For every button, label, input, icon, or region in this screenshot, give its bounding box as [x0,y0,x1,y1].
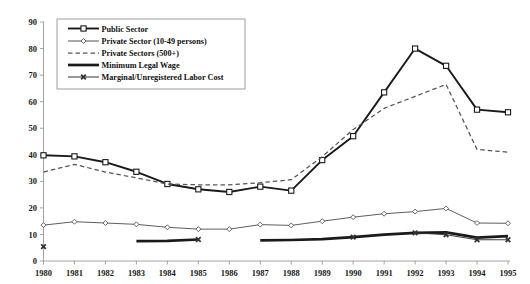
x-tick-label: 1988 [283,268,300,278]
y-tick-label: 50 [29,123,38,133]
series-private-sectors-500 [44,84,509,184]
y-tick-label: 20 [29,203,38,213]
y-axis: 0102030405060708090 [29,17,44,266]
legend-label: Private Sector (10-49 persons) [102,37,207,46]
x-tick-label: 1989 [314,268,331,278]
y-tick-label: 30 [29,176,38,186]
y-tick-label: 40 [29,150,38,160]
x-tick-label: 1991 [376,268,393,278]
series-private-sector-10-49-persons [41,206,511,232]
y-tick-label: 60 [29,97,38,107]
x-tick-label: 1993 [438,268,455,278]
x-tick-label: 1990 [345,268,362,278]
x-tick-label: 1980 [35,268,52,278]
x-tick-label: 1995 [500,268,517,278]
y-tick-label: 0 [33,256,37,266]
legend-label: Public Sector [102,25,149,34]
x-tick-label: 1986 [221,268,238,278]
x-tick-label: 1981 [66,268,83,278]
x-tick-label: 1982 [97,268,114,278]
x-tick-label: 1983 [128,268,145,278]
x-axis: 1980198119821983198419851986198719881989… [35,261,517,278]
x-tick-label: 1984 [159,268,177,278]
y-tick-label: 80 [29,44,38,54]
chart-legend: Public SectorPrivate Sector (10-49 perso… [57,19,245,89]
x-tick-label: 1985 [190,268,207,278]
legend-label: Private Sectors (500+) [102,49,180,58]
y-tick-label: 90 [29,17,38,27]
x-tick-label: 1992 [407,268,424,278]
series-minimum-legal-wage [136,232,508,241]
y-tick-label: 70 [29,70,38,80]
x-tick-label: 1987 [252,268,270,278]
chart-canvas: 0102030405060708090 19801981198219831984… [0,0,530,284]
legend-label: Marginal/Unregistered Labor Cost [102,73,224,82]
x-tick-label: 1994 [469,268,487,278]
y-tick-label: 10 [29,230,38,240]
line-chart: 0102030405060708090 19801981198219831984… [0,0,530,284]
legend-label: Minimum Legal Wage [102,61,180,70]
